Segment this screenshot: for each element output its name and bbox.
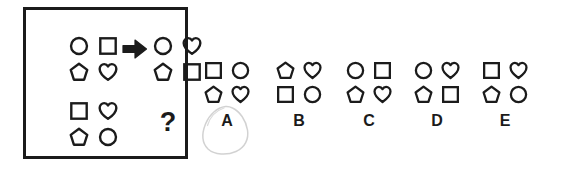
answer-option-d[interactable]: D <box>410 58 464 144</box>
shape-square <box>272 82 299 106</box>
answer-option-c[interactable]: C <box>342 58 396 144</box>
right-arrow-icon <box>122 38 148 60</box>
shape-heart <box>437 58 464 82</box>
shape-circle <box>342 58 369 82</box>
shape-square <box>369 58 396 82</box>
option-a-shapes <box>200 58 254 106</box>
shape-heart <box>177 33 206 59</box>
stem-source-group <box>64 33 122 85</box>
shape-pentagon <box>342 82 369 106</box>
shape-circle <box>148 33 177 59</box>
answer-option-b[interactable]: B <box>272 58 326 144</box>
shape-pentagon <box>64 124 93 150</box>
shape-circle <box>299 82 326 106</box>
shape-square <box>64 98 93 124</box>
shape-pentagon <box>478 82 505 106</box>
analogy-puzzle: ? A B C D E <box>0 0 561 175</box>
shape-circle <box>93 124 122 150</box>
stem-box: ? <box>23 7 188 159</box>
option-d-label: D <box>410 112 464 130</box>
option-d-shapes <box>410 58 464 106</box>
option-e-label: E <box>478 112 532 130</box>
option-a-label: A <box>200 112 254 130</box>
shape-heart <box>505 58 532 82</box>
option-b-label: B <box>272 112 326 130</box>
shape-circle <box>505 82 532 106</box>
shape-heart <box>93 98 122 124</box>
option-c-label: C <box>342 112 396 130</box>
shape-heart <box>299 58 326 82</box>
shape-heart <box>369 82 396 106</box>
shape-pentagon <box>272 58 299 82</box>
shape-pentagon <box>200 82 227 106</box>
option-c-shapes <box>342 58 396 106</box>
answer-option-e[interactable]: E <box>478 58 532 144</box>
shape-heart <box>227 82 254 106</box>
shape-pentagon <box>64 59 93 85</box>
shape-square <box>200 58 227 82</box>
shape-square <box>93 33 122 59</box>
answer-option-a[interactable]: A <box>200 58 254 144</box>
shape-square <box>478 58 505 82</box>
option-e-shapes <box>478 58 532 106</box>
shape-circle <box>227 58 254 82</box>
shape-heart <box>93 59 122 85</box>
option-b-shapes <box>272 58 326 106</box>
shape-square <box>437 82 464 106</box>
shape-circle <box>410 58 437 82</box>
shape-pentagon <box>148 59 177 85</box>
stem-query-group <box>64 98 122 150</box>
shape-pentagon <box>410 82 437 106</box>
shape-circle <box>64 33 93 59</box>
answer-placeholder: ? <box>148 102 188 142</box>
stem-transformed-group <box>148 33 206 85</box>
